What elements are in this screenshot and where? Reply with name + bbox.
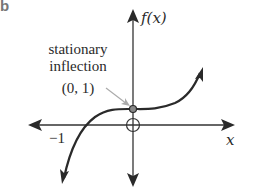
y-axis (127, 9, 139, 187)
part-label: b (0, 0, 9, 14)
x-tick-minus-one: −1 (49, 130, 65, 147)
annotation-pointer-arrow-icon (121, 98, 130, 106)
annotation-line-1: stationary (34, 41, 122, 58)
graph-figure: b f(x) x stationary inflection (0, 1) −1 (0, 0, 253, 196)
graph-canvas (0, 0, 253, 196)
annotation-line-2: inflection (34, 58, 122, 75)
x-axis-label: x (226, 131, 234, 149)
stationary-inflection-point (130, 106, 137, 113)
annotation-point: (0, 1) (34, 80, 122, 97)
y-axis-label: f(x) (141, 9, 167, 27)
